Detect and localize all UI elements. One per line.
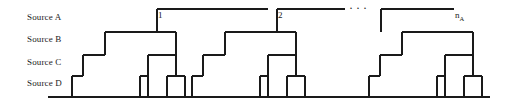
dendrogram-figure: Source A Source B Source C Source D 1 2 … [0, 0, 528, 106]
tree-lines [0, 0, 528, 106]
